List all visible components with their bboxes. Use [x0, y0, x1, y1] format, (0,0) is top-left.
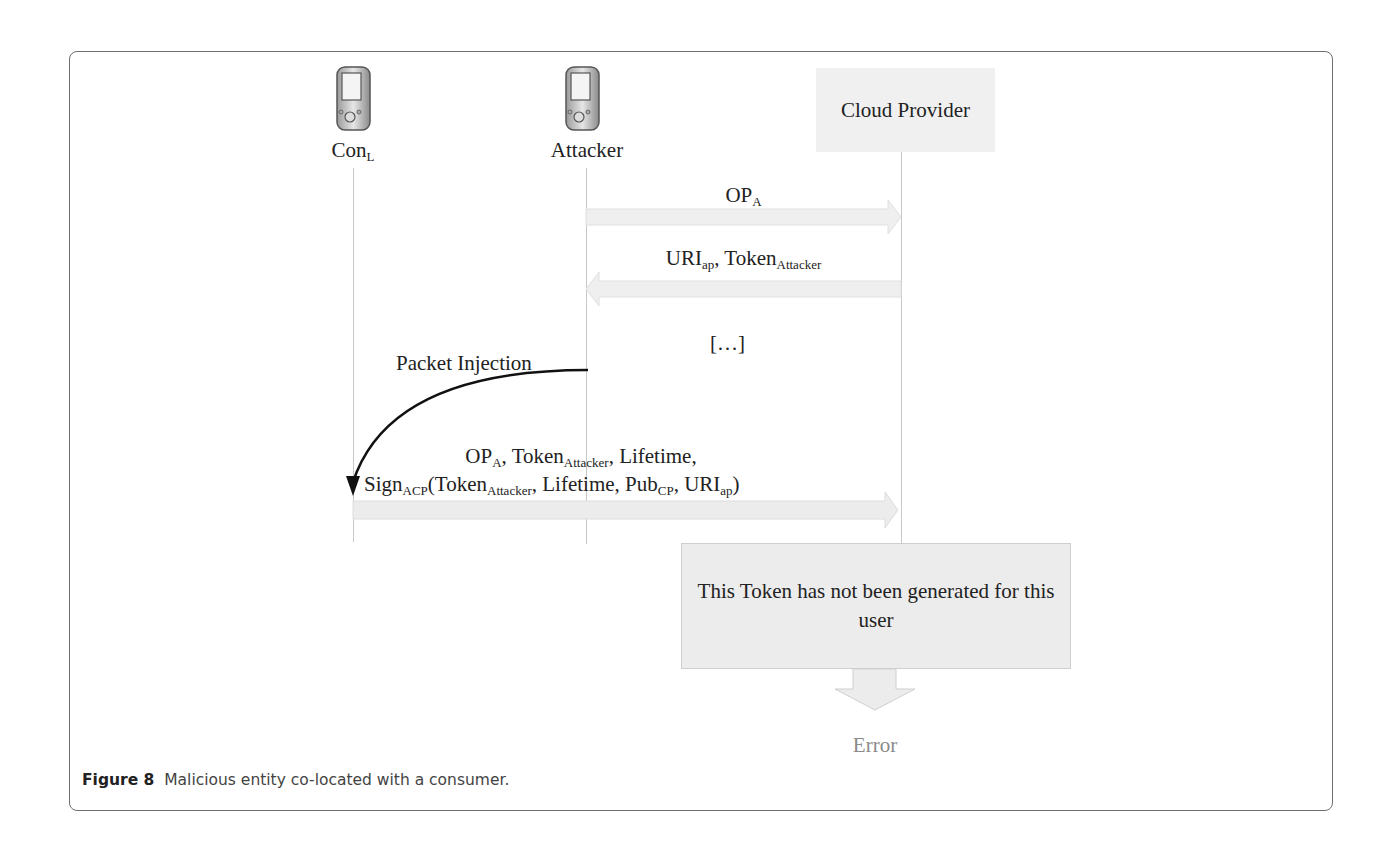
figure-caption-text: Malicious entity co-located with a consu… — [164, 771, 509, 789]
message-label-injected-line1: OPA, TokenAttacker, Lifetime, — [353, 443, 809, 469]
ellipsis-label: […] — [670, 330, 785, 356]
message-arrow-left — [586, 272, 901, 306]
message-label-op-a: OPA — [586, 182, 901, 208]
actor-label-attacker: Attacker — [532, 138, 642, 163]
error-label: Error — [830, 733, 920, 758]
actor-box-cloud-provider: Cloud Provider — [816, 68, 995, 152]
actor-label-cloud-provider: Cloud Provider — [841, 98, 970, 123]
actor-label-con-l: ConL — [313, 138, 393, 163]
pda-device-icon — [566, 67, 599, 130]
down-arrow — [835, 669, 915, 710]
message-arrow-right — [353, 492, 898, 528]
packet-injection-label: Packet Injection — [396, 350, 551, 376]
pda-device-icon — [337, 67, 370, 130]
validation-failure-text: This Token has not been generated for th… — [692, 577, 1060, 635]
message-label-uri-token: URIap, TokenAttacker — [586, 245, 901, 271]
validation-failure-box: This Token has not been generated for th… — [681, 543, 1071, 669]
message-label-injected-line2: SignACP(TokenAttacker, Lifetime, PubCP, … — [364, 471, 794, 497]
figure-number: Figure 8 — [82, 771, 154, 789]
diagram-graphics — [0, 0, 1396, 851]
figure-caption: Figure 8 Malicious entity co-located wit… — [82, 771, 509, 789]
